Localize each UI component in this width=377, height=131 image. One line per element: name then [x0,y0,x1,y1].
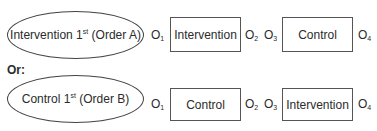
separator-or: Or: [7,63,25,77]
observation-o4-a: O4 [358,28,371,42]
observation-o2-b: O2 [245,97,258,111]
order-a-period2-box: Control [282,17,353,52]
order-b-ellipse: Control 1st (Order B) [7,75,144,123]
order-a-ellipse: Intervention 1st (Order A) [7,11,144,59]
order-b-period1-box: Control [170,88,241,121]
observation-o4-b: O4 [358,97,371,111]
observation-o3-b: O3 [264,97,277,111]
observation-o2-a: O2 [245,28,258,42]
order-b-period2-box: Intervention [282,88,353,121]
observation-o1-a: O1 [151,28,164,42]
observation-o3-a: O3 [264,28,277,42]
order-a-period1-box: Intervention [170,17,241,52]
order-b-label: Control 1st (Order B) [22,92,130,106]
order-a-label: Intervention 1st (Order A) [10,28,141,42]
observation-o1-b: O1 [151,97,164,111]
